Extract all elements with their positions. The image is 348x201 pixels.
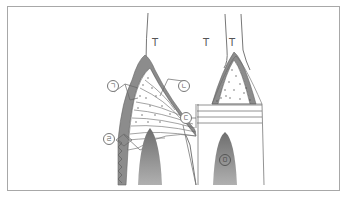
right-bands — [197, 105, 262, 123]
marker-b: ㄴ — [178, 80, 190, 92]
label-t-right-b: T — [229, 38, 235, 48]
marker-d: ㄹ — [103, 133, 115, 145]
label-t-left: T — [152, 38, 158, 48]
leader-c — [192, 104, 196, 128]
marker-a: ㄱ — [107, 80, 119, 92]
diagram-canvas — [0, 0, 348, 201]
marker-e: ㅁ — [219, 154, 231, 166]
label-t-right-a: T — [203, 38, 209, 48]
marker-c: ㄷ — [180, 112, 192, 124]
